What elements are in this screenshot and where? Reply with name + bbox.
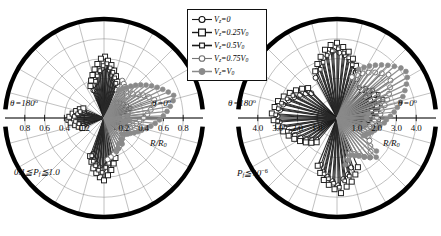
series-marker: [342, 51, 346, 55]
series-marker: [90, 72, 95, 77]
series-marker: [303, 140, 308, 145]
series-marker: [347, 56, 351, 60]
series-marker: [293, 88, 298, 93]
series-marker: [111, 71, 115, 75]
series-marker: [144, 83, 149, 88]
series-marker: [374, 155, 379, 160]
axis-tick-label: 2.0: [292, 123, 303, 133]
series-marker: [355, 165, 360, 170]
series-marker: [114, 149, 119, 154]
series-marker: [166, 90, 171, 95]
series-marker: [111, 161, 116, 166]
legend-label-3: Vz=0.75V0: [213, 54, 248, 63]
series-marker: [313, 69, 318, 74]
series-marker: [399, 66, 404, 71]
series-marker: [382, 121, 387, 126]
series-marker: [314, 140, 319, 145]
series-marker: [403, 88, 408, 93]
series-marker: [108, 66, 112, 70]
series-marker: [280, 101, 284, 105]
series-marker: [315, 62, 320, 67]
legend-item: Vz=0: [191, 13, 264, 26]
series-marker: [127, 118, 132, 123]
series-marker: [298, 139, 303, 144]
left-pf-annotation: 0.1≦Pf≦1.0: [14, 167, 60, 177]
series-marker: [114, 82, 118, 86]
polar-panel-right: [238, 19, 436, 217]
legend-key-open-circle: [191, 14, 213, 25]
legend-key-open-square: [191, 27, 213, 38]
axis-tick-label: 0.8: [19, 123, 30, 133]
series-marker: [157, 118, 162, 123]
series-marker: [321, 177, 326, 182]
series-marker: [350, 63, 354, 67]
series-marker: [128, 84, 133, 89]
series-marker: [385, 63, 390, 68]
series-marker: [392, 64, 397, 69]
series-marker: [350, 56, 355, 61]
right-theta-180-label: θ =180o: [228, 97, 256, 108]
series-marker: [94, 80, 98, 84]
axis-tick-label: 0.4: [59, 123, 70, 133]
legend-item: Vz=0.75V0: [191, 52, 264, 65]
series-marker: [116, 88, 121, 93]
series-marker: [346, 49, 351, 54]
series-marker: [106, 173, 111, 178]
series-marker: [367, 138, 372, 143]
series-marker: [160, 87, 165, 92]
axis-tick-label: 1.0: [351, 123, 362, 133]
axis-tick-label: 1.0: [312, 123, 323, 133]
series-marker: [373, 63, 378, 68]
series-marker: [113, 76, 117, 80]
series-marker: [300, 86, 305, 91]
series-marker: [285, 97, 289, 101]
axis-tick-label: 0.2: [79, 123, 90, 133]
series-marker: [171, 93, 176, 98]
series-marker: [96, 74, 100, 78]
series-marker: [138, 82, 143, 87]
series-marker: [348, 153, 353, 158]
series-marker: [94, 164, 98, 168]
left-radial-axis-label: R/R0: [150, 138, 167, 148]
series-marker: [353, 172, 358, 177]
series-marker: [89, 78, 94, 83]
series-marker: [91, 159, 95, 163]
legend-item: Vz=0.25V0: [191, 26, 264, 39]
series-marker: [362, 65, 367, 70]
right-pf-annotation: Pf≦10−6: [237, 167, 268, 178]
series-marker: [120, 142, 125, 147]
series-marker: [404, 82, 409, 87]
polar-panel-left: [5, 19, 203, 217]
series-marker: [271, 118, 276, 123]
series-marker: [277, 107, 281, 111]
series-marker: [274, 113, 278, 117]
series-marker: [315, 163, 320, 168]
series-marker: [328, 43, 333, 48]
series-marker: [292, 136, 297, 141]
series-marker: [153, 121, 158, 126]
series-marker: [149, 83, 154, 88]
series-marker: [338, 185, 342, 189]
series-marker: [343, 162, 348, 167]
series-marker: [388, 114, 393, 119]
series-marker: [102, 178, 107, 183]
left-theta-180-label: θ =180o: [10, 97, 38, 108]
legend-key-gray-circle: [191, 53, 213, 64]
series-marker: [90, 154, 94, 158]
series-marker: [361, 133, 366, 138]
series-marker: [331, 49, 335, 53]
axis-tick-label: 0.8: [178, 123, 189, 133]
axis-tick-label: 4.0: [411, 123, 422, 133]
series-marker: [119, 137, 124, 142]
legend-item: Vz=0.5V0: [191, 39, 264, 52]
legend-label-1: Vz=0.25V0: [213, 28, 248, 37]
legend-item: Vz=V0: [191, 65, 264, 78]
legend-label-0: Vz=0: [213, 15, 230, 24]
series-marker: [78, 110, 82, 114]
series-marker: [356, 67, 361, 72]
series-marker: [100, 171, 104, 175]
series-marker: [309, 140, 314, 145]
legend-label-2: Vz=0.5V0: [213, 41, 244, 50]
axis-tick-label: 0.6: [39, 123, 50, 133]
series-marker: [346, 158, 351, 163]
